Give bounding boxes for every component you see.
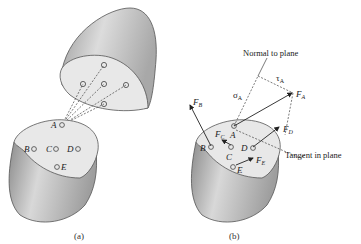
force-label-b: FB [192,97,203,108]
panel-b: A B C D E FA FB FC FD FE σA τA Normal to… [190,48,342,241]
label-b: B [24,144,30,154]
label-c: C [46,144,53,154]
caption-b: (b) [229,231,240,241]
force-label-d: FD [282,124,294,135]
upper-body [60,8,156,125]
tau-a-label: τA [276,73,285,84]
stress-diagram: A B C D E (a) [0,0,361,244]
lower-body: A B C D E [9,120,98,222]
caption-a: (a) [74,231,84,241]
force-label-a: FA [295,89,306,100]
b-label-d: D [240,143,248,153]
force-arrow-a [234,93,292,126]
label-e: E [60,162,67,172]
b-label-a: A [229,130,236,140]
tangent-in-plane-label: Tangent in plane [285,150,342,160]
label-a: A [50,120,57,130]
normal-to-plane-label: Normal to plane [243,48,298,58]
normal-leader [258,58,267,76]
b-label-c: C [226,152,233,162]
label-d: D [66,144,74,154]
b-label-e: E [236,165,243,175]
panel-a: A B C D E (a) [9,8,156,241]
b-label-b: B [200,143,206,153]
sigma-a-label: σA [233,90,243,101]
